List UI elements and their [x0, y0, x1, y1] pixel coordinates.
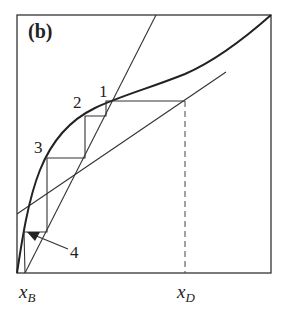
mccabe-thiele-diagram: (b) 1 2 3 4 xB xD: [0, 0, 286, 311]
steep-operating-line: [25, 15, 156, 273]
frame-box: [17, 15, 271, 273]
step-label-4: 4: [70, 243, 79, 262]
staircase-steps: [24, 101, 185, 273]
step-label-3: 3: [34, 138, 43, 157]
step-label-2: 2: [73, 93, 82, 112]
step-label-1: 1: [99, 82, 108, 101]
xd-label: xD: [176, 281, 195, 305]
shallow-operating-line: [17, 72, 226, 214]
panel-label: (b): [28, 20, 52, 43]
xb-label: xB: [18, 281, 35, 305]
arrow-shaft: [34, 235, 68, 249]
equilibrium-curve: [17, 15, 271, 273]
